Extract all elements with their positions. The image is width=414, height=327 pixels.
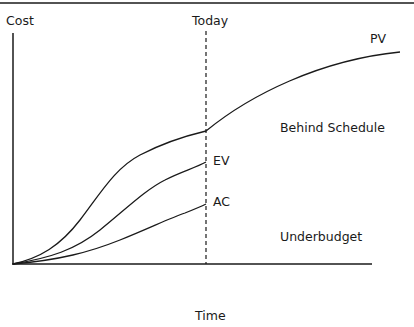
ev-curve — [13, 162, 206, 264]
earned-value-chart — [0, 0, 414, 327]
ev-label: EV — [213, 153, 229, 168]
y-axis-label: Cost — [6, 13, 34, 28]
underbudget-label: Underbudget — [280, 229, 362, 244]
pv-label: PV — [370, 31, 386, 46]
ac-label: AC — [213, 194, 230, 209]
ac-curve — [13, 204, 206, 264]
behind-schedule-label: Behind Schedule — [280, 120, 385, 135]
x-axis-label: Time — [195, 308, 226, 323]
today-label: Today — [192, 13, 228, 28]
